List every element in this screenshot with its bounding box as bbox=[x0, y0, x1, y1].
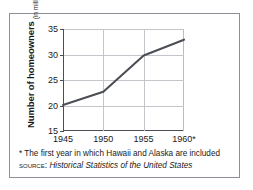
y-tick-label-30: 30 bbox=[48, 50, 58, 60]
footnote-text: * The first year in which Hawaii and Ala… bbox=[19, 148, 233, 159]
y-axis-title-main: Number of homeowners bbox=[25, 21, 36, 128]
homeowners-line-series bbox=[63, 29, 184, 131]
x-tick-label-1945: 1945 bbox=[53, 134, 73, 144]
y-tick-label-25: 25 bbox=[48, 75, 58, 85]
y-tick-mark-15 bbox=[60, 131, 64, 132]
y-axis-title: Number of homeowners (in millions) bbox=[13, 5, 47, 109]
source-line: SOURCE: Historical Statistics of the Uni… bbox=[19, 160, 233, 171]
source-label: SOURCE: bbox=[19, 160, 47, 170]
chart-notes: * The first year in which Hawaii and Ala… bbox=[19, 148, 233, 171]
x-tick-label-1950: 1950 bbox=[93, 134, 113, 144]
y-tick-label-35: 35 bbox=[48, 24, 58, 34]
y-tick-label-20: 20 bbox=[48, 101, 58, 111]
source-title: Historical Statistics of the United Stat… bbox=[49, 161, 192, 170]
x-tick-label-1955: 1955 bbox=[134, 134, 154, 144]
x-tick-label-1960: 1960* bbox=[172, 134, 196, 144]
plot-area: 35 30 25 20 15 1945 1950 1955 1960* bbox=[63, 29, 184, 131]
y-axis-title-units: (in millions) bbox=[32, 0, 39, 19]
chart-figure: Number of homeowners (in millions) 35 30… bbox=[9, 13, 240, 178]
